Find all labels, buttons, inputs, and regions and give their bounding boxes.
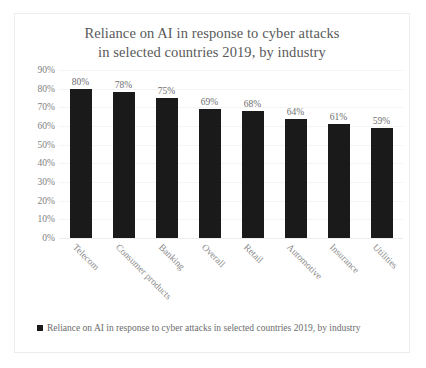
bar[interactable] xyxy=(156,98,178,238)
bar-series: 80%78%75%69%68%64%61%59% xyxy=(59,70,403,238)
x-axis-category-label: Insurance xyxy=(328,242,361,275)
chart-title: Reliance on AI in response to cyber atta… xyxy=(15,24,409,62)
x-axis-slot: Overall xyxy=(187,238,230,318)
y-axis-tick-label: 30% xyxy=(15,177,55,187)
x-axis-category-label: Retail xyxy=(242,242,265,265)
chart-legend: Reliance on AI in response to cyber atta… xyxy=(37,322,395,334)
x-axis-category-labels: TelecomConsumer productsBankingOverallRe… xyxy=(59,238,401,318)
bar[interactable] xyxy=(199,109,221,238)
bar[interactable] xyxy=(113,92,135,238)
bar-slot: 75% xyxy=(145,70,188,238)
bar[interactable] xyxy=(371,128,393,238)
bar[interactable] xyxy=(285,119,307,238)
bar-slot: 80% xyxy=(59,70,102,238)
x-axis-category-label: Utilities xyxy=(371,242,400,271)
x-axis-slot: Retail xyxy=(230,238,273,318)
bar[interactable] xyxy=(70,89,92,238)
y-axis-tick-label: 0% xyxy=(15,233,55,243)
x-axis-slot: Automotive xyxy=(273,238,316,318)
legend-color-swatch xyxy=(37,325,43,331)
x-axis-category-label: Banking xyxy=(157,242,187,272)
x-axis-slot: Telecom xyxy=(59,238,102,318)
plot-area: 90%80%70%60%50%40%30%20%10%0% 80%78%75%6… xyxy=(15,70,411,238)
bar[interactable] xyxy=(328,124,350,238)
bar-value-label: 64% xyxy=(287,107,304,117)
bar-value-label: 59% xyxy=(373,116,390,126)
y-axis-tick-label: 20% xyxy=(15,196,55,206)
x-axis-category-label: Overall xyxy=(200,242,227,269)
bar[interactable] xyxy=(242,111,264,238)
x-axis-slot: Banking xyxy=(145,238,188,318)
y-axis-tick-label: 80% xyxy=(15,84,55,94)
x-axis-category-label: Telecom xyxy=(71,242,101,272)
bar-value-label: 69% xyxy=(201,97,218,107)
bar-value-label: 68% xyxy=(244,99,261,109)
x-axis-slot: Consumer products xyxy=(102,238,145,318)
y-axis-tick-label: 70% xyxy=(15,102,55,112)
x-axis-slot: Insurance xyxy=(316,238,359,318)
bar-value-label: 75% xyxy=(158,86,175,96)
bar-slot: 61% xyxy=(317,70,360,238)
bar-slot: 64% xyxy=(274,70,317,238)
y-axis-tick-label: 50% xyxy=(15,140,55,150)
bar-value-label: 80% xyxy=(72,77,89,87)
bar-slot: 69% xyxy=(188,70,231,238)
legend-label: Reliance on AI in response to cyber atta… xyxy=(47,322,360,334)
bar-slot: 68% xyxy=(231,70,274,238)
bar-value-label: 61% xyxy=(330,112,347,122)
bar-value-label: 78% xyxy=(115,80,132,90)
y-axis-tick-label: 90% xyxy=(15,65,55,75)
bar-slot: 78% xyxy=(102,70,145,238)
y-axis-tick-label: 40% xyxy=(15,158,55,168)
chart-container: Reliance on AI in response to cyber atta… xyxy=(14,13,410,353)
y-axis-tick-label: 60% xyxy=(15,121,55,131)
y-axis-tick-label: 10% xyxy=(15,214,55,224)
y-axis: 90%80%70%60%50%40%30%20%10%0% xyxy=(15,70,59,238)
x-axis-slot: Utilities xyxy=(358,238,401,318)
bar-slot: 59% xyxy=(360,70,403,238)
